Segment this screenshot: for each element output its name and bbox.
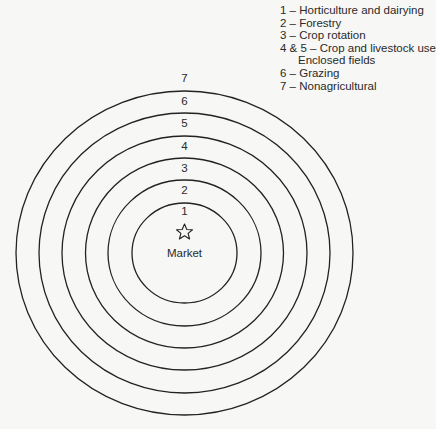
ring-label-3: 3 (181, 162, 187, 174)
ring-label-7: 7 (181, 72, 187, 84)
concentric-zones-diagram: 7 6 5 4 3 2 1 Market (0, 0, 436, 429)
ring-label-6: 6 (181, 95, 187, 107)
ring-label-2: 2 (181, 184, 187, 196)
ring-label-5: 5 (181, 117, 187, 129)
ring-label-1: 1 (181, 205, 187, 217)
market-label: Market (167, 247, 203, 259)
ring-label-4: 4 (181, 140, 188, 152)
star-icon (177, 224, 193, 239)
